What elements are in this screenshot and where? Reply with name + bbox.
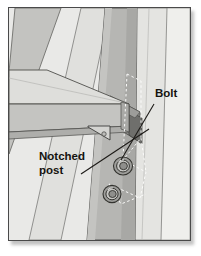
bolt-upper-head: [120, 162, 128, 169]
bolt-lower: [103, 185, 121, 202]
bolt-lower-head: [109, 191, 116, 198]
beam-end-face: [121, 102, 129, 132]
label-bolt: Bolt: [155, 87, 178, 99]
label-notched-post-line2: post: [39, 164, 63, 176]
bolt-upper: [114, 157, 133, 175]
bracket-fastener-icon: [102, 132, 106, 136]
illustration-frame: Bolt Notched post: [8, 7, 191, 241]
technical-illustration-svg: Bolt Notched post: [9, 8, 190, 240]
label-notched-post-line1: Notched: [39, 150, 85, 162]
figure-root: Bolt Notched post: [0, 0, 201, 256]
